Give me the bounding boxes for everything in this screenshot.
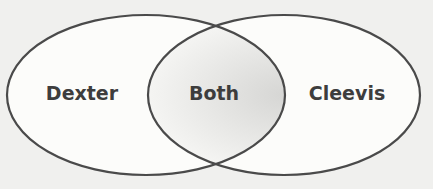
both-label: Both [189, 82, 239, 104]
cleevis-label: Cleevis [309, 82, 385, 104]
dexter-label: Dexter [46, 82, 119, 104]
venn-diagram: Dexter Both Cleevis [0, 0, 433, 189]
